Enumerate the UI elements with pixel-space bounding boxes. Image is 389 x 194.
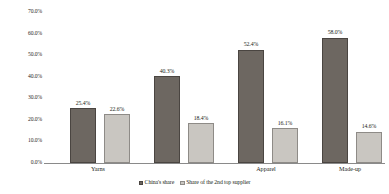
- y-axis-tick: 10.0%: [28, 138, 42, 144]
- y-axis-tick: 0.0%: [31, 160, 42, 166]
- bar-group: 52.4% 16.1%: [224, 12, 308, 163]
- bar-group: 58.0% 14.6%: [308, 12, 389, 163]
- bar-china-share: [322, 38, 348, 163]
- legend-swatch-icon: [139, 181, 144, 186]
- bar-group: 25.4% 22.6%: [56, 12, 140, 163]
- y-axis-tick: 70.0%: [28, 9, 42, 15]
- bar-value-label: 18.4%: [180, 116, 222, 122]
- y-axis-tick: 40.0%: [28, 74, 42, 80]
- bar-value-label: 25.4%: [62, 101, 104, 107]
- y-axis: 0.0% 10.0% 20.0% 30.0% 40.0% 50.0% 60.0%…: [0, 0, 46, 167]
- y-axis-tick: 30.0%: [28, 95, 42, 101]
- y-axis-tick: 50.0%: [28, 52, 42, 58]
- x-axis-category-label: Yarns: [56, 166, 140, 172]
- plot-area: 25.4% 22.6% 40.3% 18.4% 52.4%: [46, 12, 382, 163]
- legend-label: China's share: [145, 180, 175, 186]
- bar-value-label: 40.3%: [146, 69, 188, 75]
- bar-china-share: [70, 108, 96, 163]
- bar-value-label: 14.6%: [348, 124, 389, 130]
- bar-value-label: 22.6%: [96, 107, 138, 113]
- chart-legend: China's share Share of the 2nd top suppl…: [0, 180, 389, 186]
- bar-second-supplier-share: [356, 132, 382, 164]
- legend-item-second-supplier-share[interactable]: Share of the 2nd top supplier: [180, 180, 250, 186]
- bar-value-label: 16.1%: [264, 121, 306, 127]
- y-axis-tick: 20.0%: [28, 117, 42, 123]
- x-axis-category-label: Made-up: [308, 166, 389, 172]
- bar-second-supplier-share: [104, 114, 130, 163]
- bar-china-share: [238, 50, 264, 163]
- legend-item-china-share[interactable]: China's share: [139, 180, 175, 186]
- legend-swatch-icon: [180, 181, 185, 186]
- x-axis: Yarns Apparel Made-up: [46, 166, 382, 178]
- bar-value-label: 58.0%: [314, 30, 356, 36]
- y-axis-tick: 60.0%: [28, 31, 42, 37]
- x-axis-line: [44, 163, 385, 164]
- bar-group: 40.3% 18.4%: [140, 12, 224, 163]
- legend-label: Share of the 2nd top supplier: [186, 180, 250, 186]
- bar-second-supplier-share: [272, 128, 298, 163]
- bar-chart: 0.0% 10.0% 20.0% 30.0% 40.0% 50.0% 60.0%…: [0, 0, 389, 194]
- bar-value-label: 52.4%: [230, 42, 272, 48]
- bar-china-share: [154, 76, 180, 163]
- bar-second-supplier-share: [188, 123, 214, 163]
- x-axis-category-label: Apparel: [224, 166, 308, 172]
